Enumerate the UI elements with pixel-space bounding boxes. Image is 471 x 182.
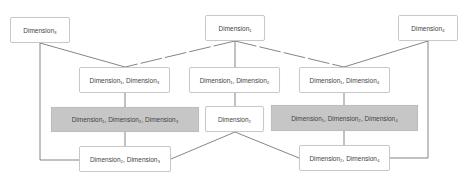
node-label: Dimension₁, Dimension₂, Dimension₃ bbox=[72, 116, 179, 123]
node-dimension-1-2-3: Dimension₁, Dimension₂, Dimension₃ bbox=[51, 107, 199, 132]
node-dimension-1-4: Dimension₁, Dimension₄ bbox=[299, 67, 390, 93]
node-label: Dimension₁, Dimension₂ bbox=[200, 77, 270, 84]
edge-d4-d24 bbox=[390, 41, 428, 158]
edge-d4-d14 bbox=[344, 41, 428, 67]
edge-d3-d13 bbox=[40, 43, 125, 67]
node-label: Dimension₁, Dimension₃ bbox=[90, 77, 160, 84]
node-dimension-2: Dimension₂ bbox=[205, 106, 264, 132]
node-label: Dimension₂ bbox=[218, 116, 251, 123]
node-label: Dimension₄ bbox=[411, 25, 444, 32]
node-dimension-1: Dimension₁ bbox=[205, 15, 265, 41]
node-label: Dimension₁ bbox=[219, 25, 252, 32]
edge-d3-d23 bbox=[40, 43, 79, 160]
node-dimension-1-2: Dimension₁, Dimension₂ bbox=[189, 67, 280, 93]
node-dimension-1-2-4: Dimension₁, Dimension₂, Dimension₄ bbox=[271, 105, 418, 131]
edge-d1-d13 bbox=[125, 41, 235, 67]
node-dimension-2-4: Dimension₂, Dimension₄ bbox=[299, 145, 390, 171]
node-dimension-1-3: Dimension₁, Dimension₃ bbox=[79, 67, 170, 93]
node-dimension-3: Dimension₃ bbox=[10, 17, 70, 43]
node-label: Dimension₃ bbox=[23, 27, 56, 34]
node-dimension-2-3: Dimension₂, Dimension₃ bbox=[79, 146, 171, 172]
node-label: Dimension₂, Dimension₃ bbox=[90, 156, 160, 163]
edge-d1-d14 bbox=[235, 41, 344, 67]
node-label: Dimension₂, Dimension₄ bbox=[309, 155, 379, 162]
node-label: Dimension₁, Dimension₂, Dimension₄ bbox=[291, 115, 398, 122]
node-label: Dimension₁, Dimension₄ bbox=[310, 77, 380, 84]
edge-d2-d24 bbox=[235, 132, 299, 158]
edge-d2-d23 bbox=[171, 132, 235, 159]
node-dimension-4: Dimension₄ bbox=[398, 15, 458, 41]
